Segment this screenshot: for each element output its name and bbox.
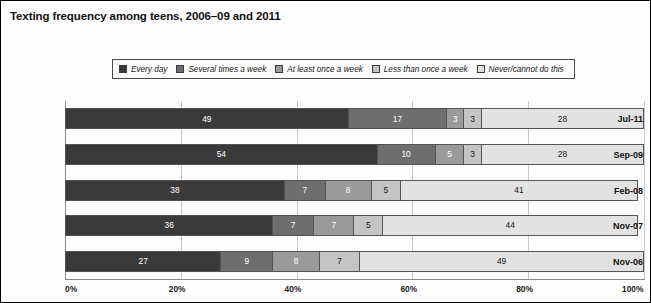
bar-segment[interactable]: 8	[326, 180, 372, 201]
legend-label: Every day	[131, 65, 167, 74]
x-axis-tick-label: 60%	[400, 284, 417, 294]
bar-segment-value: 5	[366, 221, 371, 229]
legend-entry[interactable]: Less than once a week	[372, 65, 468, 74]
bar-segment-value: 28	[558, 115, 567, 123]
bar-segment-value: 3	[453, 115, 458, 123]
bar-segment[interactable]: 8	[273, 251, 319, 272]
bar-segment-value: 7	[302, 186, 307, 194]
bar-segment-value: 10	[401, 150, 410, 158]
bar-row: 49173328	[65, 108, 644, 129]
legend-entry[interactable]: Several times a week	[176, 65, 266, 74]
x-axis-tick-label: 20%	[169, 284, 186, 294]
bar-segment-value: 5	[383, 186, 388, 194]
bar-segment[interactable]: 49	[360, 251, 644, 272]
x-axis-tick-label: 0%	[65, 284, 77, 294]
y-axis-tick-label: Jul-11	[617, 114, 643, 124]
bar-segment-value: 38	[170, 186, 179, 194]
bar-row: 3878541	[65, 180, 644, 201]
bar-segment-value: 17	[393, 115, 402, 123]
legend-entry[interactable]: Every day	[119, 65, 167, 74]
legend-entry[interactable]: At least once a week	[275, 65, 363, 74]
bar-segment[interactable]: 7	[285, 180, 326, 201]
bar-segment[interactable]: 27	[65, 251, 221, 272]
bar-segment-value: 7	[291, 221, 296, 229]
bar-segment-value: 49	[497, 257, 506, 265]
bar-segment-value: 54	[217, 150, 226, 158]
bar-segment-value: 44	[506, 221, 515, 229]
bar-segment-value: 41	[514, 186, 523, 194]
bar-row: 3677544	[65, 215, 644, 236]
legend-entry[interactable]: Never/cannot do this	[477, 65, 564, 74]
bar-segment-value: 28	[558, 150, 567, 158]
bar-segment[interactable]: 3	[464, 108, 481, 129]
plot-area: 4917332854105328387854136775442798749	[65, 101, 644, 279]
bar-segment-value: 8	[346, 186, 351, 194]
bar-segment[interactable]: 3	[464, 144, 481, 165]
chart-legend: Every daySeveral times a weekAt least on…	[112, 59, 575, 79]
bar-segment-value: 7	[331, 221, 336, 229]
bar-segment-value: 27	[139, 257, 148, 265]
bar-segment-value: 7	[337, 257, 342, 265]
legend-label: At least once a week	[287, 65, 363, 74]
legend-swatch-icon	[372, 65, 380, 73]
legend-label: Several times a week	[188, 65, 266, 74]
bar-segment-value: 8	[294, 257, 299, 265]
bar-segment[interactable]: 17	[349, 108, 447, 129]
bar-segment[interactable]: 5	[354, 215, 383, 236]
legend-swatch-icon	[176, 65, 184, 73]
bar-segment[interactable]: 38	[65, 180, 285, 201]
bar-segment[interactable]: 44	[383, 215, 638, 236]
bar-segment-value: 49	[202, 115, 211, 123]
bar-segment[interactable]: 7	[273, 215, 314, 236]
bar-segment[interactable]: 5	[372, 180, 401, 201]
bar-segment[interactable]: 49	[65, 108, 349, 129]
bar-segment[interactable]: 7	[320, 251, 361, 272]
bar-segment[interactable]: 36	[65, 215, 273, 236]
legend-label: Never/cannot do this	[489, 65, 564, 74]
gridline	[644, 101, 645, 279]
y-axis-tick-label: Feb-08	[614, 186, 643, 196]
bar-segment[interactable]: 54	[65, 144, 378, 165]
chart-title: Texting frequency among teens, 2006–09 a…	[10, 10, 281, 22]
legend-swatch-icon	[275, 65, 283, 73]
x-axis-tick-label: 80%	[516, 284, 533, 294]
bar-segment[interactable]: 3	[447, 108, 464, 129]
bar-segment[interactable]: 10	[378, 144, 436, 165]
bar-segment[interactable]: 7	[314, 215, 355, 236]
bar-segment[interactable]: 41	[401, 180, 638, 201]
legend-swatch-icon	[477, 65, 485, 73]
y-axis-tick-label: Sep-09	[613, 150, 643, 160]
legend-swatch-icon	[119, 65, 127, 73]
bar-segment-value: 5	[447, 150, 452, 158]
x-axis-tick-label: 100%	[622, 284, 643, 294]
bar-segment-value: 3	[470, 115, 475, 123]
bar-row: 2798749	[65, 251, 644, 272]
bar-segment-value: 9	[245, 257, 250, 265]
bar-segment[interactable]: 9	[221, 251, 273, 272]
legend-label: Less than once a week	[384, 65, 468, 74]
bar-segment-value: 3	[470, 150, 475, 158]
bar-segment-value: 36	[165, 221, 174, 229]
x-axis-line	[65, 279, 645, 280]
bar-segment[interactable]: 5	[436, 144, 465, 165]
chart-figure: Texting frequency among teens, 2006–09 a…	[0, 0, 651, 303]
y-axis-tick-label: Nov-06	[613, 257, 643, 267]
y-axis-tick-label: Nov-07	[613, 221, 643, 231]
bar-row: 54105328	[65, 144, 644, 165]
x-axis-tick-label: 40%	[285, 284, 302, 294]
